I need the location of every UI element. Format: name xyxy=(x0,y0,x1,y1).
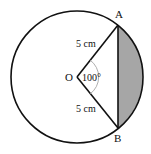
shaded-segment xyxy=(118,25,143,128)
point-a-label: A xyxy=(115,8,123,20)
diagram-canvas: O A B 5 cm 5 cm 100° xyxy=(0,0,151,154)
radius-label-bottom: 5 cm xyxy=(76,103,96,114)
point-b-label: B xyxy=(114,132,121,144)
circle-segment-diagram: O A B 5 cm 5 cm 100° xyxy=(0,0,151,154)
angle-label: 100° xyxy=(82,72,101,83)
radius-label-top: 5 cm xyxy=(76,38,96,49)
center-label: O xyxy=(65,71,73,83)
